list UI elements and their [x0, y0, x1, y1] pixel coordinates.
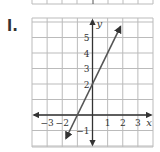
- x-tick-label: −2: [56, 118, 69, 128]
- y-tick-label: 2: [84, 80, 90, 90]
- y-axis-label: y: [96, 18, 103, 29]
- y-tick-label: −1: [76, 126, 89, 136]
- x-axis-label: x: [146, 117, 152, 128]
- graphed-line: [66, 27, 120, 139]
- x-tick-label: 3: [135, 118, 141, 128]
- x-tick-label: 2: [120, 118, 126, 128]
- y-tick-label: 3: [84, 64, 90, 74]
- line-graph: −3−21235432−1xy: [0, 0, 160, 152]
- x-tick-label: −3: [40, 118, 54, 128]
- x-tick-label: 1: [105, 118, 111, 128]
- y-tick-label: 5: [84, 33, 90, 43]
- y-tick-label: 4: [84, 49, 90, 59]
